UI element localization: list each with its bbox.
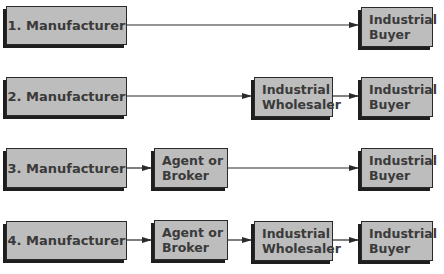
channel-2-industrial-buyer: Industrial Buyer xyxy=(361,77,433,117)
channel-3-manufacturer: 3. Manufacturer xyxy=(6,148,127,188)
manufacturer-label: 4. Manufacturer xyxy=(8,233,126,248)
buyer-label-line1: Industrial xyxy=(369,82,437,97)
agent-label-line1: Agent or xyxy=(162,153,223,168)
buyer-label-line2: Buyer xyxy=(369,241,437,256)
channel-3-agent-or-broker: Agent or Broker xyxy=(154,148,228,188)
buyer-label-line2: Buyer xyxy=(369,168,437,183)
agent-label-line1: Agent or xyxy=(162,225,223,240)
channel-2-industrial-wholesaler: Industrial Wholesaler xyxy=(254,77,333,117)
buyer-label-line2: Buyer xyxy=(369,27,437,42)
buyer-label-line1: Industrial xyxy=(369,153,437,168)
manufacturer-label: 3. Manufacturer xyxy=(8,161,126,176)
buyer-label-line1: Industrial xyxy=(369,12,437,27)
channel-4-industrial-buyer: Industrial Buyer xyxy=(361,221,433,261)
channel-2-manufacturer: 2. Manufacturer xyxy=(6,77,127,116)
channel-4-industrial-wholesaler: Industrial Wholesaler xyxy=(254,221,333,261)
channel-3-industrial-buyer: Industrial Buyer xyxy=(361,148,433,188)
buyer-label-line2: Buyer xyxy=(369,97,437,112)
channel-1-manufacturer: 1. Manufacturer xyxy=(6,6,127,45)
channel-4-agent-or-broker: Agent or Broker xyxy=(154,220,228,260)
wholesaler-label-line2: Wholesaler xyxy=(262,241,341,256)
channel-4-manufacturer: 4. Manufacturer xyxy=(6,221,127,260)
wholesaler-label-line1: Industrial xyxy=(262,226,341,241)
channel-1-industrial-buyer: Industrial Buyer xyxy=(361,7,433,47)
agent-label-line2: Broker xyxy=(162,240,223,255)
buyer-label-line1: Industrial xyxy=(369,226,437,241)
agent-label-line2: Broker xyxy=(162,168,223,183)
manufacturer-label: 2. Manufacturer xyxy=(8,89,126,104)
manufacturer-label: 1. Manufacturer xyxy=(8,18,126,33)
wholesaler-label-line2: Wholesaler xyxy=(262,97,341,112)
wholesaler-label-line1: Industrial xyxy=(262,82,341,97)
